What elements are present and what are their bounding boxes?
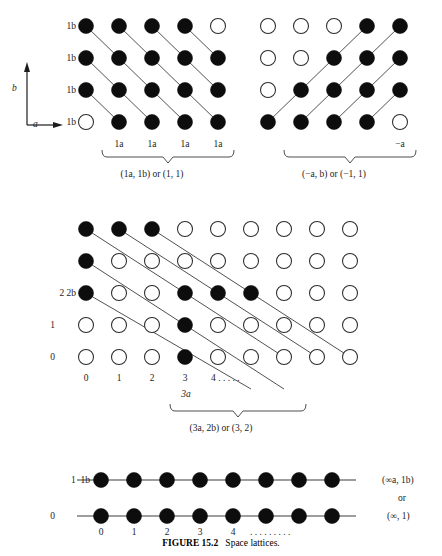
- panel-bottom-filled-node-r1c1: [127, 509, 142, 524]
- bot-x-label-2: 2: [165, 528, 170, 538]
- panel-top-left-filled-node-r3c4: [211, 115, 226, 130]
- axis-key-b-arrow-head: [24, 62, 30, 72]
- panel-top-right-filled-node-r1c2: [327, 51, 342, 66]
- panel-middle-open-node-r3c8: [343, 318, 358, 333]
- panel-middle-open-node-r4c7: [310, 350, 325, 365]
- panel-middle-filled-node-r0c1: [112, 222, 127, 237]
- figure-title: Space lattices.: [225, 538, 279, 548]
- mid-y-label-0: 2 2b: [59, 289, 76, 299]
- panel-middle-open-node-r0c8: [343, 222, 358, 237]
- caption-middle: (3a, 2b) or (3, 2): [190, 424, 253, 434]
- panel-top-right-connector-1: [301, 26, 400, 122]
- panel-middle-open-node-r2c8: [343, 286, 358, 301]
- panel-bottom-filled-node-r1c7: [325, 509, 340, 524]
- panel-middle-open-node-r4c6: [277, 350, 292, 365]
- bot-x-label-3: 3: [198, 528, 203, 538]
- panel-top-left-filled-node-r0c1: [112, 19, 127, 34]
- panel-middle-filled-node-r2c4: [211, 286, 226, 301]
- panel-top-left-filled-node-r2c1: [112, 83, 127, 98]
- axis-key-a-arrow-head: [53, 122, 63, 128]
- panel-bottom-filled-node-r1c2: [160, 509, 175, 524]
- panel-middle-open-node-r4c5: [244, 350, 259, 365]
- panel-top-left-filled-node-r3c3: [178, 115, 193, 130]
- panel-middle-filled-node-r2c3: [178, 286, 193, 301]
- panel-middle-open-node-r3c6: [277, 318, 292, 333]
- mid-x-sub-label: 3a: [181, 390, 191, 400]
- panel-middle-open-node-r1c4: [211, 254, 226, 269]
- mid-x-label-0: 0: [84, 374, 89, 384]
- panel-middle-open-node-r4c1: [112, 350, 127, 365]
- mid-y-label-1: 1: [50, 321, 55, 331]
- tl-x-label-1: 1a: [148, 140, 157, 150]
- panel-top-left-filled-node-r1c2: [145, 51, 160, 66]
- figure-caption: FIGURE 15.2 Space lattices.: [162, 538, 279, 548]
- tl-x-label-0: 1a: [115, 140, 124, 150]
- figure-space-lattices: b a 1b 1b 1b 1b 1a 1a 1a 1a −a (1a, 1b) …: [0, 0, 442, 556]
- panel-middle-open-node-r1c8: [343, 254, 358, 269]
- mid-x-label-2: 2: [150, 374, 155, 384]
- bot-x-label-4: 4: [231, 528, 236, 538]
- panel-middle-open-node-r3c0: [79, 318, 94, 333]
- panel-middle-open-node-r2c1: [112, 286, 127, 301]
- panel-top-left-filled-node-r2c0: [79, 83, 94, 98]
- panel-top-left-filled-node-r2c4: [211, 83, 226, 98]
- panel-top-left-filled-node-r0c3: [178, 19, 193, 34]
- panel-top-right-open-node-r0c0: [261, 19, 276, 34]
- brace-top-left: [102, 150, 234, 163]
- bot-y-label-1: 0: [50, 512, 55, 522]
- panel-top-left-filled-node-r3c2: [145, 115, 160, 130]
- brace-middle: [170, 404, 306, 417]
- panel-top-left-filled-node-r0c0: [79, 19, 94, 34]
- panel-top-left-filled-node-r3c1: [112, 115, 127, 130]
- panel-middle-open-node-r4c2: [145, 350, 160, 365]
- panel-middle-filled-node-r3c3: [178, 318, 193, 333]
- panel-middle-filled-node-r2c0: [79, 286, 94, 301]
- panel-top-right-open-node-r0c2: [327, 19, 342, 34]
- panel-middle-open-node-r3c4: [211, 318, 226, 333]
- panel-middle-filled-node-r2c5: [244, 286, 259, 301]
- axis-key: [24, 62, 63, 128]
- panel-middle-open-node-r4c0: [79, 350, 94, 365]
- panel-top-left-filled-node-r1c4: [211, 51, 226, 66]
- panel-bottom-filled-node-r1c0: [94, 509, 109, 524]
- bot-y-label-0: 1 1b: [71, 476, 90, 486]
- axis-key-a-label: a: [33, 120, 38, 130]
- figure-number: FIGURE 15.2: [162, 538, 218, 548]
- panel-middle-open-node-r3c7: [310, 318, 325, 333]
- panel-bottom-filled-node-r1c5: [259, 509, 274, 524]
- panel-middle-open-node-r1c6: [277, 254, 292, 269]
- panel-bottom-filled-node-r0c6: [292, 473, 307, 488]
- panel-top-left-filled-node-r1c3: [178, 51, 193, 66]
- panel-middle-open-node-r3c2: [145, 318, 160, 333]
- panel-middle-open-node-r2c2: [145, 286, 160, 301]
- tl-y-label-1: 1b: [67, 54, 77, 64]
- tl-x-label-2: 1a: [181, 140, 190, 150]
- panel-top-right-filled-node-r3c0: [261, 115, 276, 130]
- panel-top-right-filled-node-r2c4: [393, 83, 408, 98]
- panel-top-right-filled-node-r3c1: [294, 115, 309, 130]
- panel-top-right-filled-node-r2c1: [294, 83, 309, 98]
- panel-middle-filled-node-r0c0: [79, 222, 94, 237]
- panel-middle-open-node-r0c3: [178, 222, 193, 237]
- panel-top-left-filled-node-r1c1: [112, 51, 127, 66]
- tl-y-label-2: 1b: [67, 86, 77, 96]
- panel-middle-open-node-r2c7: [310, 286, 325, 301]
- lattice-drawing-canvas: [0, 0, 442, 556]
- panel-bottom: [77, 473, 356, 524]
- panel-middle-filled-node-r4c3: [178, 350, 193, 365]
- panel-top-right-filled-node-r0c4: [393, 19, 408, 34]
- panel-bottom-filled-node-r1c6: [292, 509, 307, 524]
- panel-top-right-filled-node-r2c2: [327, 83, 342, 98]
- panel-top-right-filled-node-r0c3: [360, 19, 375, 34]
- panel-top-left-open-node-r3c0: [79, 115, 94, 130]
- axis-key-b-label: b: [12, 84, 17, 94]
- panel-middle-filled-node-r0c2: [145, 222, 160, 237]
- panel-top-right-open-node-r0c1: [294, 19, 309, 34]
- panel-bottom-filled-node-r0c7: [325, 473, 340, 488]
- panel-middle-open-node-r3c5: [244, 318, 259, 333]
- caption-top-right: (−a, b) or (−1, 1): [302, 170, 366, 180]
- panel-bottom-filled-node-r1c3: [193, 509, 208, 524]
- panel-bottom-filled-node-r0c4: [226, 473, 241, 488]
- tl-y-label-0: 1b: [67, 22, 77, 32]
- panel-top-right-filled-node-r1c3: [360, 51, 375, 66]
